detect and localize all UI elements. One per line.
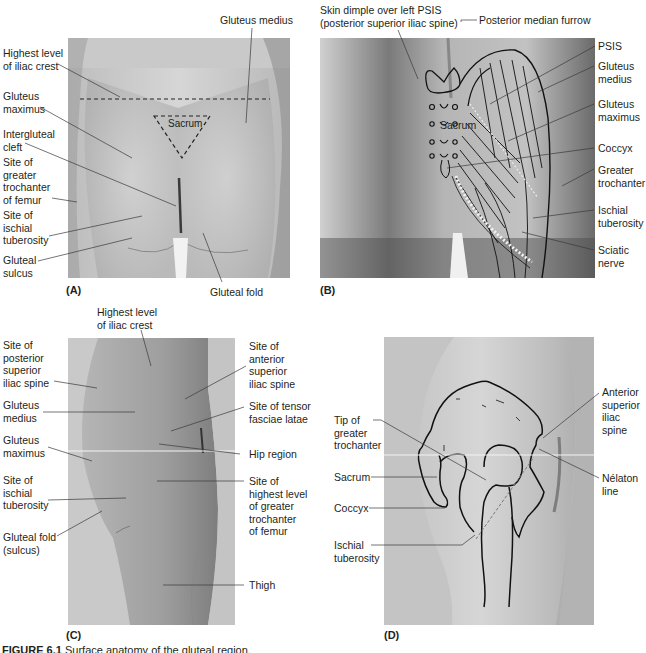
panel-b-id: (B)	[320, 284, 335, 296]
label-c-greater-trochanter: Site of highest level of greater trochan…	[249, 475, 307, 538]
buttocks-posterior-photo	[68, 38, 290, 278]
label-a-greater-trochanter: Site of greater trochanter of femur	[3, 156, 50, 206]
label-b-gluteus-maximus: Gluteus maximus	[598, 98, 640, 123]
figure-caption-label: FIGURE 6.1	[2, 644, 62, 653]
panel-d-id: (D)	[384, 629, 399, 641]
figure-caption-text: Surface anatomy of the gluteal region.	[65, 644, 251, 653]
label-a-gluteus-maximus: Gluteus maximus	[3, 90, 45, 115]
label-b-psis: PSIS	[598, 40, 622, 53]
label-b-ischial-tuberosity: Ischial tuberosity	[598, 204, 644, 229]
label-a-highest-iliac-crest: Highest level of iliac crest	[3, 47, 63, 72]
panel-c-photo	[68, 338, 235, 625]
panel-d-photo	[384, 337, 594, 625]
label-c-hip-region: Hip region	[249, 448, 297, 461]
label-a-gluteus-medius: Gluteus medius	[220, 14, 293, 27]
label-d-ischial-tuberosity: Ischial tuberosity	[334, 539, 380, 564]
label-b-coccyx: Coccyx	[598, 142, 632, 155]
panel-a-id: (A)	[66, 284, 81, 296]
label-b-greater-trochanter: Greater trochanter	[598, 164, 645, 189]
panel-c-id: (C)	[66, 629, 81, 641]
label-c-gluteal-fold: Gluteal fold (sulcus)	[3, 531, 56, 556]
hip-lateral-photo	[68, 338, 235, 625]
buttocks-muscle-overlay-photo	[320, 38, 595, 278]
label-b-posterior-median-furrow: Posterior median furrow	[479, 14, 590, 27]
label-b-sacrum: Sacrum	[440, 119, 476, 132]
label-a-intergluteal-cleft: Intergluteal cleft	[3, 128, 55, 153]
label-b-skin-dimple: Skin dimple over left PSIS (posterior su…	[320, 4, 458, 29]
label-c-gluteus-maximus: Gluteus maximus	[3, 434, 45, 459]
label-c-ischial-tuberosity: Site of ischial tuberosity	[3, 474, 49, 512]
label-c-psis-site: Site of posterior superior iliac spine	[3, 339, 49, 389]
figure-caption: FIGURE 6.1 Surface anatomy of the glutea…	[2, 644, 251, 653]
label-c-gluteus-medius: Gluteus medius	[3, 399, 39, 424]
panel-a-photo	[68, 38, 290, 278]
label-c-asis-site: Site of anterior superior iliac spine	[249, 340, 295, 390]
label-b-sciatic-nerve: Sciatic nerve	[598, 244, 629, 269]
label-a-gluteal-sulcus: Gluteal sulcus	[3, 254, 36, 279]
label-d-nelaton-line: Nélaton line	[602, 472, 638, 497]
label-c-highest-iliac-crest: Highest level of iliac crest	[97, 306, 157, 331]
label-c-thigh: Thigh	[249, 579, 275, 592]
label-a-sacrum: Sacrum	[168, 118, 202, 131]
panel-b-photo	[320, 38, 595, 278]
label-d-asis: Anterior superior iliac spine	[602, 386, 640, 436]
label-d-sacrum: Sacrum	[334, 471, 370, 484]
label-b-gluteus-medius: Gluteus medius	[598, 60, 634, 85]
hip-bone-overlay-photo	[384, 337, 594, 625]
label-d-coccyx: Coccyx	[334, 502, 368, 515]
label-a-ischial-tuberosity: Site of ischial tuberosity	[3, 209, 49, 247]
label-c-tensor-fasciae-latae: Site of tensor fasciae latae	[249, 400, 311, 425]
label-a-gluteal-fold: Gluteal fold	[210, 286, 263, 299]
label-d-tip-greater-trochanter: Tip of greater trochanter	[334, 414, 381, 452]
